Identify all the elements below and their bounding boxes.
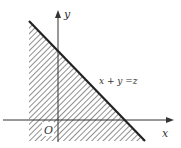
origin-label: O bbox=[44, 124, 53, 137]
x-axis-label: x bbox=[162, 127, 169, 140]
x-axis-arrow-icon bbox=[166, 117, 174, 123]
diagram-canvas: y x O x + y =z bbox=[0, 0, 181, 148]
y-axis-arrow-icon bbox=[55, 10, 61, 18]
line-equation-label: x + y =z bbox=[99, 76, 138, 86]
y-axis-label: y bbox=[63, 8, 71, 21]
